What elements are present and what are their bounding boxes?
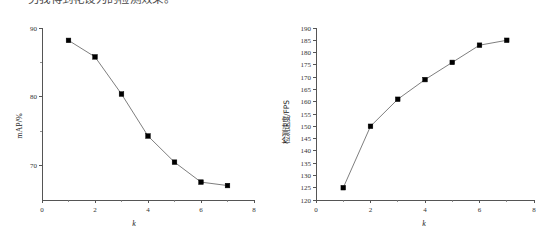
caption-strip: 另我得到花设为的检测效果。 <box>0 0 554 11</box>
data-point-marker <box>225 183 230 188</box>
left-plot-group: 70809002468 <box>30 25 256 215</box>
data-point-marker <box>146 134 151 139</box>
x-tick-label: 6 <box>199 206 203 214</box>
y-tick-label: 175 <box>301 61 312 69</box>
data-point-marker <box>368 124 373 129</box>
x-tick-label: 2 <box>369 206 373 214</box>
y-tick-label: 120 <box>301 197 312 205</box>
y-tick-label: 130 <box>301 172 312 180</box>
x-tick-label: 2 <box>93 206 97 214</box>
x-tick-label: 0 <box>40 206 44 214</box>
data-point-marker <box>341 185 346 190</box>
data-point-marker <box>199 180 204 185</box>
x-tick-label: 8 <box>532 206 536 214</box>
data-point-marker <box>423 77 428 82</box>
data-point-marker <box>93 55 98 60</box>
x-tick-label: 6 <box>478 206 482 214</box>
series-line <box>69 40 228 185</box>
chart-right-svg: 1201251301351401451501551601651701751801… <box>276 14 548 236</box>
left-x-axis-title: k <box>132 219 136 228</box>
y-tick-label: 190 <box>301 25 312 33</box>
right-x-axis-title: k <box>422 219 426 228</box>
chart-right-fps: 1201251301351401451501551601651701751801… <box>276 14 548 236</box>
right-plot-group: 1201251301351401451501551601651701751801… <box>301 25 537 215</box>
y-tick-label: 140 <box>301 147 312 155</box>
data-point-marker <box>66 38 71 43</box>
y-tick-label: 155 <box>301 111 312 119</box>
data-point-marker <box>504 38 509 43</box>
data-point-marker <box>395 97 400 102</box>
y-tick-label: 170 <box>301 74 312 82</box>
chart-left-map: 70809002468 k mAP/% <box>6 14 268 236</box>
data-point-marker <box>477 43 482 48</box>
data-point-marker <box>172 160 177 165</box>
y-tick-label: 185 <box>301 37 312 45</box>
x-tick-label: 0 <box>314 206 318 214</box>
right-y-axis-title: 检测速度/FPS <box>281 100 291 144</box>
figure-page: 另我得到花设为的检测效果。 70809002468 k mAP/% 120125… <box>0 0 554 240</box>
data-point-marker <box>450 60 455 65</box>
x-tick-label: 4 <box>423 206 427 214</box>
series-line <box>343 40 507 187</box>
y-tick-label: 90 <box>30 25 38 33</box>
y-tick-label: 80 <box>30 93 38 101</box>
chart-left-svg: 70809002468 k mAP/% <box>6 14 268 236</box>
y-tick-label: 180 <box>301 49 312 57</box>
y-tick-label: 135 <box>301 160 312 168</box>
y-tick-label: 165 <box>301 86 312 94</box>
y-tick-label: 160 <box>301 98 312 106</box>
x-tick-label: 4 <box>146 206 150 214</box>
data-point-marker <box>119 92 124 97</box>
x-tick-label: 8 <box>252 206 256 214</box>
figure-caption: 另我得到花设为的检测效果。 <box>28 0 175 6</box>
y-tick-label: 70 <box>30 162 38 170</box>
y-tick-label: 150 <box>301 123 312 131</box>
y-tick-label: 145 <box>301 135 312 143</box>
y-tick-label: 125 <box>301 184 312 192</box>
left-y-axis-title: mAP/% <box>15 113 24 139</box>
